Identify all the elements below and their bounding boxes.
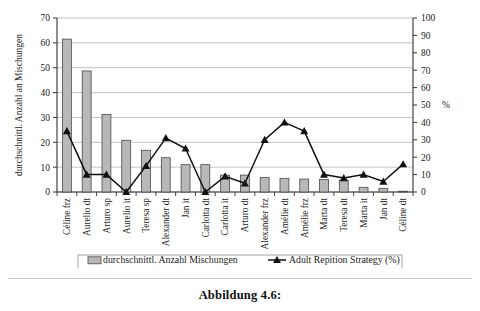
- bar: [300, 179, 309, 192]
- y-tick-label-left: 10: [41, 163, 51, 173]
- y-tick-label-right: 70: [421, 66, 431, 76]
- line-marker: [320, 171, 328, 178]
- bar: [201, 165, 210, 192]
- y-tick-label-left: 40: [41, 88, 51, 98]
- x-category-label: Teresa dt: [339, 198, 349, 232]
- horizontal-rule: [8, 278, 472, 279]
- bar: [320, 180, 329, 192]
- bar: [102, 114, 111, 192]
- y-tick-label-right: 30: [421, 135, 431, 145]
- y-tick-label-right: 90: [421, 31, 431, 41]
- bar: [122, 140, 131, 192]
- y-tick-label-left: 60: [41, 38, 51, 48]
- y-tick-label-left: 50: [41, 63, 51, 73]
- x-category-label: Marta it: [359, 198, 369, 228]
- right-axis-unit: %: [442, 100, 450, 110]
- x-category-label: Aurelio it: [122, 198, 132, 234]
- x-category-label: Jan dt: [379, 198, 389, 220]
- bar: [280, 178, 289, 192]
- y-tick-label-right: 40: [421, 118, 431, 128]
- x-category-label: Aurelio dt: [82, 198, 92, 236]
- x-category-label: Céline dt: [398, 198, 408, 232]
- y-tick-label-right: 0: [421, 187, 426, 197]
- line-series-path: [67, 122, 403, 192]
- x-category-label: Céline frz: [62, 198, 72, 235]
- x-category-label: Arturo dt: [240, 198, 250, 233]
- bar: [260, 178, 269, 192]
- y-tick-label-right: 10: [421, 170, 431, 180]
- x-category-label: Teresa sp: [141, 198, 151, 233]
- bar: [62, 39, 71, 192]
- x-category-label: Marta dt: [319, 198, 329, 230]
- y-tick-label-right: 80: [421, 48, 431, 58]
- x-category-label: Jan it: [181, 198, 191, 218]
- y-tick-label-left: 20: [41, 138, 51, 148]
- y-tick-label-right: 60: [421, 83, 431, 93]
- x-category-label: Arturo sp: [102, 198, 112, 234]
- line-marker: [280, 118, 288, 125]
- x-category-label: Amélie frz: [300, 198, 310, 238]
- y-tick-label-right: 100: [421, 13, 436, 23]
- line-marker: [399, 160, 407, 167]
- chart-container: 0102030405060700102030405060708090100%du…: [0, 0, 480, 268]
- y-tick-label-left: 30: [41, 113, 51, 123]
- x-category-label: Carlotta it: [220, 198, 230, 236]
- x-category-label: Amélie dt: [280, 198, 290, 235]
- legend-bar-label: durchschnittl. Anzahl Mischungen: [103, 254, 238, 265]
- line-marker: [162, 134, 170, 141]
- bar: [181, 165, 190, 192]
- left-axis-title: durchschnittl. Anzahl an Mischungen: [14, 34, 24, 176]
- y-tick-label-left: 70: [41, 13, 51, 23]
- combo-chart: 0102030405060700102030405060708090100%du…: [0, 0, 480, 268]
- bar: [359, 187, 368, 192]
- legend-bar-swatch: [88, 257, 101, 264]
- bar: [379, 188, 388, 192]
- x-category-label: Alexander frz: [260, 198, 270, 249]
- x-category-label: Alexander dt: [161, 198, 171, 247]
- legend-line-label: Adult Repition Strategy (%): [289, 254, 400, 266]
- x-category-label: Carlotta dt: [201, 198, 211, 238]
- figure-caption: Abbildung 4.6:: [0, 288, 480, 303]
- y-tick-label-left: 0: [45, 187, 50, 197]
- y-tick-label-right: 50: [421, 100, 431, 110]
- bar: [399, 191, 408, 192]
- bar: [161, 158, 170, 192]
- bar: [339, 180, 348, 192]
- line-marker: [182, 145, 190, 152]
- line-marker: [360, 171, 368, 178]
- y-tick-label-right: 20: [421, 153, 431, 163]
